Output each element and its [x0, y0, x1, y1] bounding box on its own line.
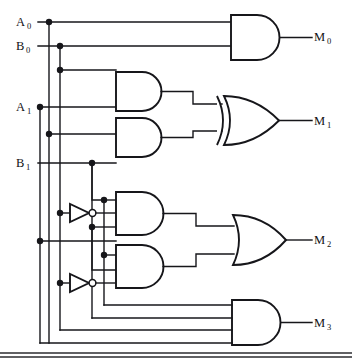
inverter-1: [70, 204, 116, 222]
junction-dot: [57, 43, 63, 49]
xor-gate-m1: [217, 96, 312, 145]
and-gate-y1: [116, 192, 234, 235]
and-gate-x1: [116, 72, 222, 111]
junction-dot: [57, 67, 63, 73]
wire-A0-to-and-x2: [46, 131, 116, 137]
input-label-B0-text: B: [16, 39, 24, 53]
junction-dot: [57, 280, 63, 286]
input-label-B1-sub: 1: [26, 162, 30, 172]
output-label-M1-text: M: [314, 114, 325, 128]
output-label-M2-sub: 2: [327, 239, 331, 249]
wire-routing-to-m3: [40, 305, 232, 343]
wire-node-taps-mid: [89, 224, 116, 270]
junction-dot: [46, 131, 52, 137]
and-gate-m3: [232, 300, 312, 345]
junction-dot: [46, 19, 52, 25]
inverter-bubble-icon: [89, 280, 96, 287]
inverter-2: [70, 274, 116, 292]
junction-dot: [57, 210, 63, 216]
output-label-M3-sub: 3: [327, 322, 331, 332]
input-label-B0: B 0: [16, 39, 30, 55]
output-label-M2-text: M: [314, 233, 325, 247]
junction-dot: [37, 104, 43, 110]
inverter-bubble-icon: [89, 210, 96, 217]
circuit-canvas: A 0 B 0 A 1 B 1 M 0 M 1 M 2 M 3: [0, 0, 352, 363]
or-gate-m2: [233, 215, 312, 265]
input-label-B0-sub: 0: [26, 45, 30, 55]
input-label-A0-text: A: [16, 15, 25, 29]
output-label-M0-sub: 0: [327, 36, 331, 46]
wire-B0-to-inverter-1: [57, 210, 70, 216]
input-label-A0-sub: 0: [27, 21, 31, 31]
input-label-B1: B 1: [16, 156, 30, 172]
logic-circuit-diagram: A 0 B 0 A 1 B 1 M 0 M 1 M 2 M 3: [0, 0, 352, 363]
input-label-A1-text: A: [16, 100, 25, 114]
input-label-B1-text: B: [16, 156, 24, 170]
and-gate-m0: [231, 15, 312, 60]
output-label-M1: M 1: [314, 114, 331, 130]
input-label-A1: A 1: [16, 100, 31, 116]
input-label-A0: A 0: [16, 15, 31, 31]
wire-B0-to-inverter-2: [57, 280, 70, 286]
output-label-M3: M 3: [314, 316, 331, 332]
output-label-M3-text: M: [314, 316, 325, 330]
output-label-M2: M 2: [314, 233, 331, 249]
input-bus-A0: [38, 19, 231, 343]
and-gate-x2: [116, 118, 222, 157]
output-label-M0: M 0: [314, 30, 331, 46]
output-label-M1-sub: 1: [327, 120, 331, 130]
wire-B0-to-and-x1: [57, 67, 116, 73]
junction-dot: [101, 252, 107, 258]
junction-dot: [37, 238, 43, 244]
output-label-M0-text: M: [314, 30, 325, 44]
input-label-A1-sub: 1: [27, 106, 31, 116]
and-gate-y2: [116, 245, 234, 288]
